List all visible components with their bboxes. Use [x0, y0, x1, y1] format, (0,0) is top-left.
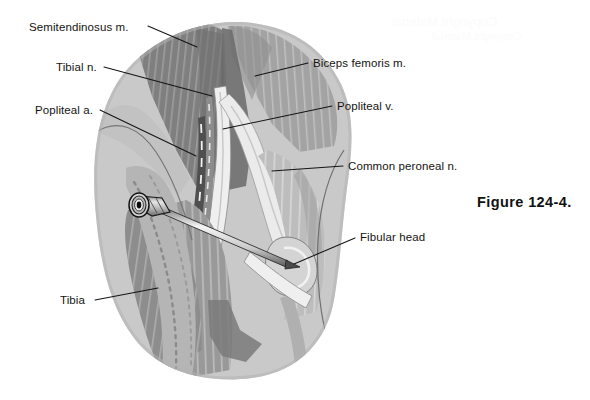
label-semitendinosus: Semitendinosus m.: [29, 22, 129, 34]
label-popliteal-artery: Popliteal a.: [35, 105, 93, 117]
label-fibular-head: Fibular head: [360, 232, 425, 244]
leg-anatomy-group: [94, 21, 355, 380]
figure-container: Copyright Material Copyright Material: [0, 0, 590, 400]
label-common-peroneal: Common peroneal n.: [348, 161, 457, 173]
needle-lumen-opening: [137, 202, 142, 209]
label-tibia: Tibia: [60, 295, 85, 307]
label-biceps-femoris: Biceps femoris m.: [313, 58, 406, 70]
label-popliteal-vein: Popliteal v.: [337, 101, 394, 113]
label-tibial-nerve: Tibial n.: [56, 62, 97, 74]
figure-caption: Figure 124-4.: [477, 194, 572, 210]
